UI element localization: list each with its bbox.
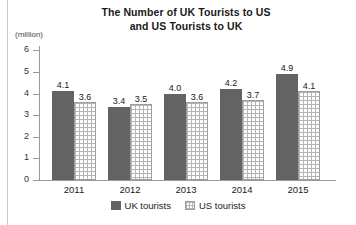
bar-value-label: 3.5 xyxy=(135,94,148,104)
bar-value-label: 4.9 xyxy=(281,63,294,73)
bar-uk-2013: 4.0 xyxy=(164,94,186,180)
y-tick-label-3: 3 xyxy=(24,109,29,119)
y-tick-label-1: 1 xyxy=(24,152,29,162)
legend-swatch-uk-tourists xyxy=(111,201,121,210)
bar-value-label: 4.1 xyxy=(303,81,316,91)
chart-screenshot: The Number of UK Tourists to US and US T… xyxy=(0,0,356,225)
bar-uk-2015: 4.9 xyxy=(276,74,298,180)
y-tick-label-6: 6 xyxy=(24,44,29,54)
bar-us-2011: 3.6 xyxy=(74,102,96,180)
bar-us-2013: 3.6 xyxy=(186,102,208,180)
bar-group-2013: 4.03.6 xyxy=(164,44,208,180)
y-tick-label-5: 5 xyxy=(24,66,29,76)
bar-us-2015: 4.1 xyxy=(298,91,320,180)
bar-group-2014: 4.23.7 xyxy=(220,44,264,180)
y-tick-label-4: 4 xyxy=(24,88,29,98)
bar-uk-2014: 4.2 xyxy=(220,89,242,180)
x-tick-label-2014: 2014 xyxy=(212,184,272,195)
bar-group-2015: 4.94.1 xyxy=(276,44,320,180)
bar-value-label: 3.4 xyxy=(113,96,126,106)
chart-legend: UK tourists US tourists xyxy=(0,200,356,211)
bar-uk-2012: 3.4 xyxy=(108,107,130,180)
legend-item-us-tourists: US tourists xyxy=(185,200,245,211)
x-tick-label-2013: 2013 xyxy=(156,184,216,195)
chart-title-line-2: and US Tourists to UK xyxy=(36,20,336,34)
chart-title: The Number of UK Tourists to US and US T… xyxy=(36,6,336,33)
bar-group-2011: 4.13.6 xyxy=(52,44,96,180)
bar-value-label: 3.6 xyxy=(79,92,92,102)
legend-label-uk-tourists: UK tourists xyxy=(125,200,171,211)
y-tick-label-0: 0 xyxy=(24,174,29,184)
bar-group-2012: 3.43.5 xyxy=(108,44,152,180)
bar-us-2014: 3.7 xyxy=(242,100,264,180)
bar-uk-2011: 4.1 xyxy=(52,91,74,180)
chart-title-line-1: The Number of UK Tourists to US xyxy=(36,6,336,20)
bar-value-label: 3.6 xyxy=(191,92,204,102)
bar-value-label: 3.7 xyxy=(247,90,260,100)
legend-swatch-us-tourists xyxy=(185,201,195,210)
x-axis-line xyxy=(39,180,336,181)
bar-value-label: 4.1 xyxy=(57,80,70,90)
bar-us-2012: 3.5 xyxy=(130,104,152,180)
bar-value-label: 4.2 xyxy=(225,78,238,88)
plot-area: 4.13.63.43.54.03.64.23.74.94.1 xyxy=(39,44,336,180)
y-tick-0: 0 xyxy=(33,180,40,181)
y-axis-unit-label: (million) xyxy=(15,30,43,39)
y-tick-label-2: 2 xyxy=(24,131,29,141)
x-tick-label-2015: 2015 xyxy=(268,184,328,195)
legend-item-uk-tourists: UK tourists xyxy=(111,200,171,211)
legend-label-us-tourists: US tourists xyxy=(199,200,245,211)
x-tick-label-2012: 2012 xyxy=(100,184,160,195)
page-edge-rule xyxy=(7,0,8,225)
bar-value-label: 4.0 xyxy=(169,83,182,93)
x-tick-label-2011: 2011 xyxy=(44,184,104,195)
